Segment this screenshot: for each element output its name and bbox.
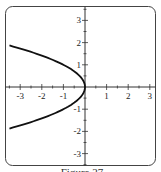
figure-caption: Figure 27 (61, 166, 104, 172)
x-tick-label: -3 (16, 91, 24, 101)
x-tick-label: 3 (148, 91, 153, 101)
chart: -3-2-1123321-1-2-3 Figure 27 (0, 0, 160, 172)
y-tick-label: -3 (74, 149, 82, 159)
y-tick-label: 3 (77, 15, 82, 25)
x-tick-label: 1 (104, 91, 109, 101)
axes: -3-2-1123321-1-2-3 (6, 7, 161, 166)
x-tick-label: -1 (60, 91, 68, 101)
y-tick-label: -2 (74, 126, 82, 136)
y-tick-label: -1 (74, 104, 82, 114)
y-tick-label: 1 (77, 60, 82, 70)
plot-frame (6, 7, 156, 166)
y-tick-label: 2 (77, 38, 82, 48)
x-tick-label: 2 (126, 91, 131, 101)
x-tick-label: -2 (38, 91, 46, 101)
